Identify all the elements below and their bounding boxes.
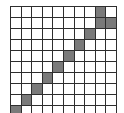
grid-cell xyxy=(43,62,54,73)
grid-cell xyxy=(75,95,86,106)
grid-cell xyxy=(96,95,107,106)
grid-cell xyxy=(75,106,86,113)
grid-cell xyxy=(96,62,107,73)
grid-cell xyxy=(22,51,33,62)
grid-cell xyxy=(75,29,86,40)
grid-cell xyxy=(43,29,54,40)
grid-cell xyxy=(43,51,54,62)
grid-cell xyxy=(75,7,86,18)
grid-cell xyxy=(106,106,117,113)
grid-cell xyxy=(11,29,22,40)
grid-cell xyxy=(106,7,117,18)
grid-cell xyxy=(53,84,64,95)
grid-cell xyxy=(75,51,86,62)
grid-cell xyxy=(11,18,22,29)
grid-cell xyxy=(22,84,33,95)
grid-cell xyxy=(64,106,75,113)
grid-cell xyxy=(64,29,75,40)
grid-cell xyxy=(106,51,117,62)
grid-cell xyxy=(32,7,43,18)
grid-cell xyxy=(106,62,117,73)
grid-cell xyxy=(85,84,96,95)
grid-cell xyxy=(96,106,107,113)
grid-cell xyxy=(11,7,22,18)
grid-cell xyxy=(32,106,43,113)
grid-cell xyxy=(43,18,54,29)
grid-cell xyxy=(32,73,43,84)
grid-cell xyxy=(11,40,22,51)
pixel-grid xyxy=(10,6,117,113)
grid-cell xyxy=(53,95,64,106)
grid-cell xyxy=(75,73,86,84)
grid-cell xyxy=(106,95,117,106)
grid-cell xyxy=(43,84,54,95)
grid-cell xyxy=(64,40,75,51)
grid-cell-filled xyxy=(106,18,117,29)
grid-cell xyxy=(53,106,64,113)
grid-cell xyxy=(22,7,33,18)
grid-cell xyxy=(85,106,96,113)
grid-cell-filled xyxy=(22,95,33,106)
grid-cell xyxy=(11,95,22,106)
grid-cell xyxy=(106,84,117,95)
grid-cell xyxy=(53,51,64,62)
grid-cell xyxy=(43,7,54,18)
grid-cell xyxy=(11,84,22,95)
grid-cell xyxy=(43,95,54,106)
grid-cell xyxy=(32,18,43,29)
grid-cell-filled xyxy=(11,106,22,113)
grid-cell xyxy=(32,40,43,51)
grid-cell xyxy=(22,18,33,29)
grid-cell-filled xyxy=(43,73,54,84)
grid-cell xyxy=(22,73,33,84)
grid-cell xyxy=(75,62,86,73)
grid-cell xyxy=(11,62,22,73)
grid-cell xyxy=(96,73,107,84)
grid-cell xyxy=(53,73,64,84)
grid-cell xyxy=(43,106,54,113)
grid-cell xyxy=(22,29,33,40)
grid-cell xyxy=(85,51,96,62)
grid-cell xyxy=(64,95,75,106)
grid-cell xyxy=(75,84,86,95)
grid-cell xyxy=(32,95,43,106)
grid-cell-filled xyxy=(96,7,107,18)
grid-cell xyxy=(32,29,43,40)
grid-cell-filled xyxy=(53,62,64,73)
grid-cell xyxy=(106,40,117,51)
grid-cell xyxy=(32,51,43,62)
grid-cell xyxy=(43,40,54,51)
grid-cell xyxy=(11,51,22,62)
grid-cell xyxy=(85,18,96,29)
grid-cell xyxy=(96,84,107,95)
grid-cell xyxy=(64,84,75,95)
grid-cell-filled xyxy=(75,40,86,51)
grid-cell xyxy=(64,62,75,73)
grid-cell xyxy=(106,73,117,84)
grid-cell xyxy=(85,62,96,73)
grid-cell-filled xyxy=(64,51,75,62)
grid-cell xyxy=(85,40,96,51)
grid-cell xyxy=(96,51,107,62)
grid-cell xyxy=(75,18,86,29)
grid-cell xyxy=(96,29,107,40)
grid-cell xyxy=(53,7,64,18)
grid-cell xyxy=(96,40,107,51)
grid-cell xyxy=(53,18,64,29)
grid-cell xyxy=(85,95,96,106)
grid-cell xyxy=(32,62,43,73)
grid-cell xyxy=(53,29,64,40)
grid-cell xyxy=(64,18,75,29)
grid-cell xyxy=(11,73,22,84)
grid-cell xyxy=(64,7,75,18)
grid-cell xyxy=(22,106,33,113)
grid-cell xyxy=(106,29,117,40)
grid-cell xyxy=(85,73,96,84)
grid-cell xyxy=(85,7,96,18)
grid-cell xyxy=(22,40,33,51)
grid-cell xyxy=(22,62,33,73)
grid-cell xyxy=(53,40,64,51)
grid-cell-filled xyxy=(96,18,107,29)
grid-cell-filled xyxy=(85,29,96,40)
grid-cell-filled xyxy=(32,84,43,95)
